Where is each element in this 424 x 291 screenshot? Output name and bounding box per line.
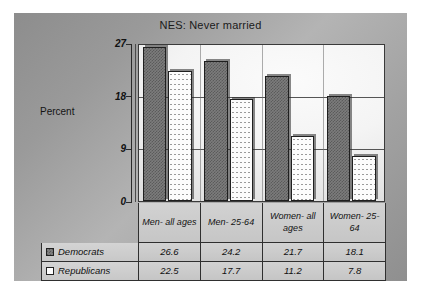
- group-separator-2: [262, 45, 263, 201]
- category-header-row: Men- all ages Men- 25-64 Women- all ages…: [138, 203, 386, 243]
- bar-democrats-0: [143, 47, 167, 201]
- group-separator-1: [200, 45, 201, 201]
- legend-entry-democrats: Democrats: [42, 243, 139, 261]
- table-row-democrats: Democrats 26.6 24.2 21.7 18.1: [42, 243, 385, 262]
- y-axis-spine-inner: [135, 44, 136, 202]
- chart-panel: NES: Never married Percent 27 18 9 0 Men…: [14, 13, 407, 281]
- category-label-0: Men- all ages: [139, 203, 201, 242]
- value-republicans-1: 17.7: [201, 262, 263, 281]
- data-value-table: Democrats 26.6 24.2 21.7 18.1 Republican…: [41, 243, 386, 281]
- bar-democrats-1: [204, 61, 228, 201]
- legend-label-republicans: Republicans: [58, 265, 110, 276]
- legend-swatch-democrats-icon: [46, 248, 54, 256]
- category-label-1: Men- 25-64: [201, 203, 263, 242]
- y-axis-label: Percent: [40, 106, 74, 117]
- y-tick-label-18: 18: [115, 92, 126, 102]
- y-tick-mark-0: [126, 202, 132, 203]
- value-democrats-3: 18.1: [324, 243, 385, 261]
- legend-label-democrats: Democrats: [58, 246, 104, 257]
- bar-republicans-3: [352, 156, 376, 201]
- legend-swatch-republicans-icon: [46, 267, 54, 275]
- bar-republicans-1: [230, 99, 254, 201]
- y-tick-mark-27: [126, 44, 132, 45]
- bar-republicans-2: [291, 136, 315, 201]
- y-axis-spine: [131, 44, 132, 202]
- bar-republicans-0: [168, 71, 192, 201]
- value-democrats-0: 26.6: [139, 243, 201, 261]
- value-republicans-3: 7.8: [324, 262, 385, 281]
- bar-democrats-2: [265, 76, 289, 201]
- chart-title: NES: Never married: [14, 19, 407, 31]
- value-democrats-1: 24.2: [201, 243, 263, 261]
- legend-entry-republicans: Republicans: [42, 262, 139, 281]
- category-label-2: Women- all ages: [263, 203, 325, 242]
- bar-democrats-3: [327, 96, 351, 201]
- y-tick-mark-18: [126, 96, 132, 97]
- value-republicans-2: 11.2: [263, 262, 325, 281]
- y-tick-label-27: 27: [115, 39, 126, 49]
- category-label-3: Women- 25-64: [324, 203, 385, 242]
- y-axis-tick-labels: 27 18 9 0: [100, 44, 126, 202]
- plot-area: [138, 44, 385, 202]
- value-republicans-0: 22.5: [139, 262, 201, 281]
- group-separator-3: [323, 45, 324, 201]
- value-democrats-2: 21.7: [263, 243, 325, 261]
- y-tick-mark-9: [126, 149, 132, 150]
- table-row-republicans: Republicans 22.5 17.7 11.2 7.8: [42, 262, 385, 281]
